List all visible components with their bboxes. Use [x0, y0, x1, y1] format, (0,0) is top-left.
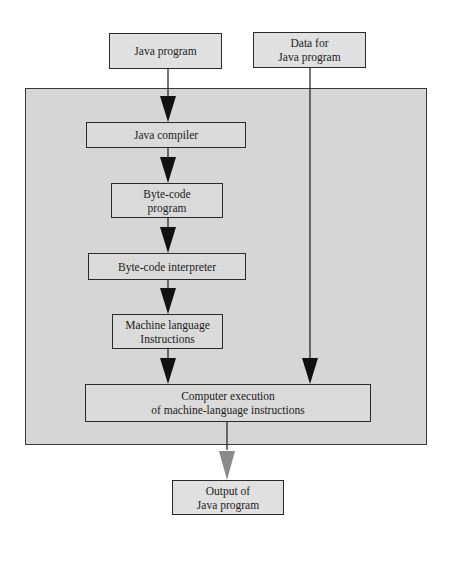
- label-line1: Byte-code: [143, 187, 190, 201]
- label: Byte-code interpreter: [118, 260, 216, 274]
- label: Java compiler: [134, 128, 198, 142]
- arrow-to-output: [219, 451, 235, 480]
- label-line1: Machine language: [125, 318, 210, 332]
- arrow-to-interpreter: [160, 227, 176, 253]
- label: Java program: [134, 44, 196, 58]
- flow-arrows: [0, 0, 461, 561]
- step-java-compiler: Java compiler: [86, 122, 246, 148]
- arrow-to-machine-lang: [160, 288, 176, 314]
- arrow-to-bytecode: [160, 157, 176, 183]
- input-java-program: Java program: [109, 33, 222, 69]
- arrow-to-compiler: [160, 96, 176, 122]
- label-line1: Data for: [291, 36, 329, 50]
- output-java-program: Output of Java program: [172, 480, 284, 515]
- label-line1: Output of: [206, 484, 250, 498]
- label-line1: Computer execution: [181, 389, 275, 403]
- step-computer-execution: Computer execution of machine-language i…: [85, 384, 371, 422]
- step-bytecode-program: Byte-code program: [111, 183, 223, 218]
- step-bytecode-interpreter: Byte-code interpreter: [88, 253, 246, 280]
- arrow-to-execution-right: [302, 358, 318, 384]
- step-machine-language: Machine language Instructions: [112, 314, 223, 349]
- label-line2: Instructions: [140, 332, 194, 346]
- label-line2: Java program: [278, 50, 340, 64]
- label-line2: of machine-language instructions: [151, 403, 304, 417]
- input-data-for-program: Data for Java program: [253, 32, 366, 68]
- arrow-to-execution-left: [160, 358, 176, 384]
- label-line2: Java program: [197, 498, 259, 512]
- label-line2: program: [148, 201, 187, 215]
